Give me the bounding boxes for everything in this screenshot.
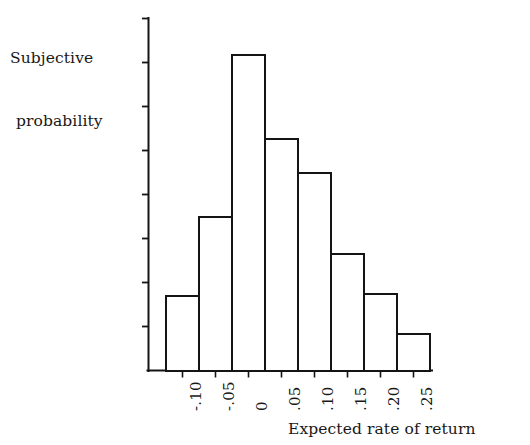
x-axis-tick-label: .25 [420,386,435,410]
histogram-bar [397,334,430,371]
x-axis-tick-label: .20 [387,386,402,410]
histogram-bars [166,55,430,370]
x-axis-ticks [183,371,414,378]
histogram-bar [166,296,199,371]
x-axis-tick-label: .05 [288,386,303,410]
x-axis-tick-label: -.05 [222,381,237,411]
x-axis-tick-label: .15 [354,386,369,410]
histogram-bar [232,55,265,370]
chart-figure: Subjective probability -.10-.050.05.10.1… [0,0,530,445]
histogram-bar [331,254,364,370]
plot-area [0,0,530,445]
histogram-bar [265,139,298,371]
histogram-bar [199,217,232,371]
histogram-bar [364,294,397,370]
x-axis-title: Expected rate of return [288,420,476,439]
x-axis-tick-label: -.10 [189,381,204,411]
histogram-bar [298,173,331,370]
plot-svg [0,0,530,445]
x-axis-tick-label: 0 [255,401,270,411]
x-axis-tick-label: .10 [321,386,336,410]
